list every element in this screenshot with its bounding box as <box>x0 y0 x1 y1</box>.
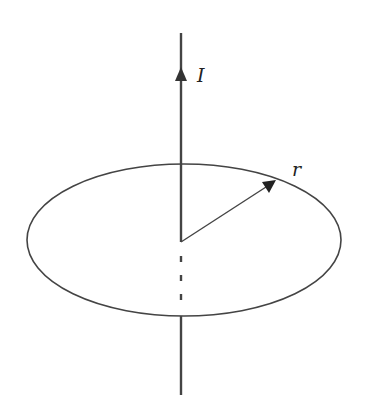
radius-label: r <box>292 158 303 180</box>
radius-vector <box>181 187 266 242</box>
current-arrow-icon <box>175 67 187 81</box>
wire-loop-diagram: I r <box>0 0 371 420</box>
radius-arrowhead-icon <box>262 180 276 193</box>
current-label: I <box>196 64 205 86</box>
